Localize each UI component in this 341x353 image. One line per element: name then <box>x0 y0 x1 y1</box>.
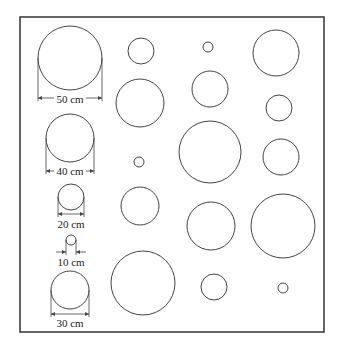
field-circle <box>134 157 144 167</box>
field-circle <box>179 121 241 183</box>
field-circle <box>263 139 299 175</box>
size-label: 50 cm <box>56 93 84 105</box>
arrow-left-icon <box>38 96 42 100</box>
field-circle <box>192 71 228 107</box>
reference-circle <box>46 114 94 162</box>
field-circle <box>253 30 299 76</box>
arrow-right-icon <box>62 250 66 254</box>
reference-circle <box>66 235 76 245</box>
field-circle <box>203 42 213 52</box>
arrow-right-icon <box>85 312 89 316</box>
reference-circles: 50 cm40 cm20 cm10 cm30 cm <box>38 26 102 329</box>
reference-circle-group: 50 cm <box>38 26 102 105</box>
reference-circle <box>38 26 102 90</box>
arrow-left-icon <box>46 169 50 173</box>
arrow-left-icon <box>51 312 55 316</box>
arrow-left-icon <box>76 250 80 254</box>
size-label: 40 cm <box>56 165 84 177</box>
field-circle <box>111 251 175 315</box>
field-circle <box>187 202 235 250</box>
arrow-left-icon <box>58 212 62 216</box>
field-circles <box>111 30 315 315</box>
reference-circle-group: 20 cm <box>57 184 85 230</box>
field-circle <box>251 194 315 258</box>
circle-size-diagram: 50 cm40 cm20 cm10 cm30 cm <box>0 0 341 353</box>
field-circle <box>266 95 292 121</box>
arrow-right-icon <box>90 169 94 173</box>
size-label: 10 cm <box>57 256 85 268</box>
field-circle <box>201 274 227 300</box>
size-label: 20 cm <box>57 218 85 230</box>
field-circle <box>128 38 154 64</box>
field-circle <box>278 283 288 293</box>
arrow-right-icon <box>98 96 102 100</box>
field-circle <box>121 187 159 225</box>
arrow-right-icon <box>80 212 84 216</box>
reference-circle <box>58 184 84 210</box>
reference-circle-group: 40 cm <box>46 114 94 177</box>
reference-circle-group: 10 cm <box>56 235 86 268</box>
field-circle <box>116 79 164 127</box>
reference-circle <box>51 271 89 309</box>
size-label: 30 cm <box>56 317 84 329</box>
reference-circle-group: 30 cm <box>51 271 89 329</box>
